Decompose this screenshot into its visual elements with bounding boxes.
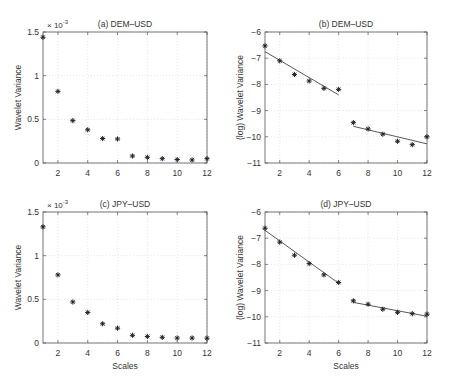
y-tick-label: −11: [247, 158, 261, 168]
x-tick-label: 10: [172, 168, 182, 178]
y-tick-label: 1: [34, 71, 39, 81]
data-point-marker: [307, 261, 312, 266]
x-tick-label: 6: [115, 348, 120, 358]
y-tick-label: −6: [251, 207, 261, 217]
grid: [265, 212, 427, 343]
chart-title: (c) JPY–USD: [100, 199, 151, 209]
x-tick-label: 8: [145, 168, 150, 178]
data-point-marker: [351, 298, 356, 303]
y-tick-label: −9: [251, 106, 261, 116]
x-tick-label: 12: [202, 348, 212, 358]
x-tick-label: 6: [336, 348, 341, 358]
y-axis-label: Wavelet Variance: [13, 64, 23, 130]
data-point-marker: [55, 89, 60, 94]
data-point-marker: [204, 156, 209, 161]
x-tick-label: 10: [393, 348, 403, 358]
data-point-marker: [115, 136, 120, 141]
data-point-marker: [85, 310, 90, 315]
data-point-marker: [115, 326, 120, 331]
data-point-marker: [365, 302, 370, 307]
data-point-marker: [395, 310, 400, 315]
fit-line: [353, 302, 427, 316]
data-point-marker: [175, 335, 180, 340]
y-tick-label: −7: [251, 233, 261, 243]
x-tick-label: 4: [85, 348, 90, 358]
y-axis-label: Wavelet Variance: [13, 244, 23, 310]
data-point-marker: [380, 307, 385, 312]
data-point-marker: [321, 272, 326, 277]
x-tick-label: 4: [85, 168, 90, 178]
y-multiplier: × 10-3: [47, 19, 69, 30]
x-tick-label: 4: [307, 168, 312, 178]
data-point-marker: [351, 120, 356, 125]
axes-frame: [43, 212, 207, 343]
y-tick-label: 0: [34, 338, 39, 348]
panel-b: 24681012−11−10−9−8−7−6(b) DEM–USD(log) W…: [235, 19, 432, 178]
y-tick-label: −6: [251, 27, 261, 37]
x-tick-label: 2: [277, 168, 282, 178]
y-multiplier: × 10-3: [47, 199, 69, 210]
data-point-marker: [100, 321, 105, 326]
data-point-marker: [277, 240, 282, 245]
data-point-marker: [145, 155, 150, 160]
figure: 2468101200.511.5× 10-3(a) DEM–USDWavelet…: [0, 0, 449, 377]
x-tick-label: 4: [307, 348, 312, 358]
data-point-marker: [85, 127, 90, 132]
x-tick-label: 8: [145, 348, 150, 358]
y-multiplier-base: × 10: [47, 201, 63, 210]
y-tick-label: −9: [251, 286, 261, 296]
panel-d: 24681012−11−10−9−8−7−6(d) JPY–USD(log) W…: [235, 199, 432, 371]
y-tick-label: 0: [34, 158, 39, 168]
data-point-marker: [292, 72, 297, 77]
axes-frame: [43, 32, 207, 163]
x-tick-label: 6: [336, 168, 341, 178]
y-tick-label: −11: [247, 338, 261, 348]
x-tick-label: 2: [56, 348, 61, 358]
data-point-marker: [336, 280, 341, 285]
y-axis-label: (log) Wavelet Variance: [235, 235, 245, 320]
data-point-marker: [262, 43, 267, 48]
chart-title: (a) DEM–USD: [98, 19, 152, 29]
grid: [43, 212, 207, 343]
data-point-marker: [424, 134, 429, 139]
fit-line: [353, 126, 427, 144]
grid: [43, 32, 207, 163]
x-tick-label: 8: [366, 348, 371, 358]
chart-title: (d) JPY–USD: [320, 199, 371, 209]
data-point-marker: [424, 312, 429, 317]
data-point-marker: [189, 335, 194, 340]
x-tick-label: 8: [366, 168, 371, 178]
data-point-marker: [395, 139, 400, 144]
x-tick-label: 12: [422, 168, 432, 178]
y-tick-label: 1.5: [27, 207, 39, 217]
y-tick-label: −10: [247, 132, 262, 142]
data-point-marker: [160, 335, 165, 340]
data-point-marker: [380, 132, 385, 137]
panel-c: 2468101200.511.5× 10-3(c) JPY–USDWavelet…: [13, 199, 212, 371]
x-tick-label: 6: [115, 168, 120, 178]
y-multiplier-exponent: -3: [63, 199, 69, 205]
x-tick-label: 12: [202, 168, 212, 178]
x-tick-label: 2: [56, 168, 61, 178]
axes-frame: [265, 212, 427, 343]
data-point-marker: [40, 224, 45, 229]
y-tick-label: 0.5: [27, 114, 39, 124]
panel-a: 2468101200.511.5× 10-3(a) DEM–USDWavelet…: [13, 19, 212, 178]
y-tick-label: −7: [251, 53, 261, 63]
data-point-marker: [130, 333, 135, 338]
data-point-marker: [145, 334, 150, 339]
x-tick-label: 10: [393, 168, 403, 178]
x-tick-label: 10: [172, 348, 182, 358]
y-tick-label: 1: [34, 251, 39, 261]
chart-title: (b) DEM–USD: [319, 19, 373, 29]
data-point-marker: [100, 136, 105, 141]
data-point-marker: [292, 253, 297, 258]
y-axis-label: (log) Wavelet Variance: [235, 55, 245, 140]
y-multiplier-exponent: -3: [63, 19, 69, 25]
x-axis-label: Scales: [112, 361, 138, 371]
y-tick-label: 1.5: [27, 27, 39, 37]
axes-frame: [265, 32, 427, 163]
data-point-marker: [321, 86, 326, 91]
data-point-marker: [204, 336, 209, 341]
y-tick-label: −8: [251, 259, 261, 269]
